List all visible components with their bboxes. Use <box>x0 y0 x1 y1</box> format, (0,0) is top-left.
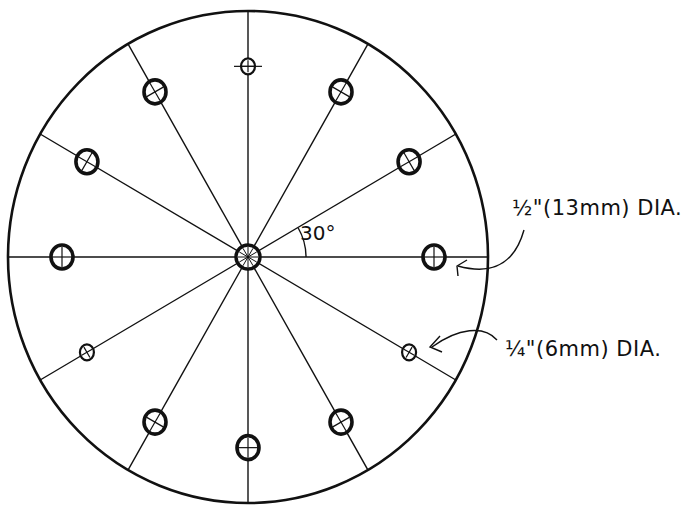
large-hole <box>330 80 352 104</box>
large-hole <box>398 150 420 174</box>
large-hole-label: ½"(13mm) DIA. <box>512 196 682 220</box>
large-hole <box>76 150 98 174</box>
large-hole <box>330 410 352 434</box>
small-hole <box>402 344 416 360</box>
radial-line <box>248 134 456 257</box>
annotations <box>298 228 524 352</box>
radial-line <box>128 44 248 257</box>
large-hole-leader-arrow <box>458 230 524 269</box>
small-hole <box>234 58 262 74</box>
radial-line <box>40 134 248 257</box>
radial-line <box>248 257 368 470</box>
small-hole-leader-arrow <box>432 330 497 347</box>
angle-label: 30° <box>300 221 335 245</box>
large-hole <box>237 436 259 460</box>
center-hub <box>236 245 260 269</box>
large-hole <box>144 80 166 104</box>
radial-line <box>40 257 248 380</box>
small-hole <box>80 344 94 360</box>
small-hole-label: ¼"(6mm) DIA. <box>505 337 661 361</box>
large-hole <box>51 245 73 269</box>
radial-line <box>248 257 456 380</box>
radial-line <box>128 257 248 470</box>
large-hole <box>144 410 166 434</box>
large-hole <box>423 245 445 269</box>
